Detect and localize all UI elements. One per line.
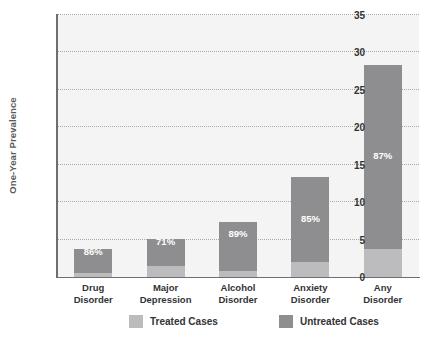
- y-axis-tick-label: 10: [339, 197, 365, 208]
- category-label-line: Alcohol: [202, 282, 274, 294]
- bar-group[interactable]: 87%: [364, 65, 402, 277]
- y-axis-title-text: One-Year Prevalence: [7, 97, 18, 193]
- y-axis-tick-label: 35: [339, 10, 365, 21]
- chart-container: One-Year Prevalence 86%71%89%85%87% 0510…: [0, 0, 427, 341]
- y-axis-tick-label: 0: [339, 272, 365, 283]
- legend-swatch-untreated: [279, 315, 293, 328]
- y-axis-tick-label: 15: [339, 159, 365, 170]
- bar-segment-untreated[interactable]: [291, 177, 329, 262]
- legend-item[interactable]: Treated Cases: [129, 315, 218, 328]
- category-label-line: Disorder: [57, 294, 129, 306]
- bar-segment-treated[interactable]: [147, 266, 185, 277]
- category-label-line: Anxiety: [274, 282, 346, 294]
- legend-label: Untreated Cases: [300, 316, 379, 327]
- bar-segment-untreated[interactable]: [364, 65, 402, 249]
- bar-segment-untreated[interactable]: [147, 239, 185, 266]
- bar-segment-treated[interactable]: [364, 249, 402, 277]
- y-axis-tick-label: 25: [339, 84, 365, 95]
- y-axis-tick-label: 30: [339, 47, 365, 58]
- bar-segment-treated[interactable]: [74, 273, 112, 277]
- bar-segment-untreated[interactable]: [74, 249, 112, 273]
- legend-swatch-treated: [129, 315, 143, 328]
- category-label-line: Disorder: [347, 294, 419, 306]
- x-axis-category-label: DrugDisorder: [57, 282, 129, 306]
- y-axis-title: One-Year Prevalence: [0, 0, 24, 290]
- y-axis-tick-label: 20: [339, 122, 365, 133]
- bar-group[interactable]: 85%: [291, 177, 329, 277]
- bar-group[interactable]: 89%: [219, 222, 257, 277]
- category-label-line: Major: [129, 282, 201, 294]
- legend-label: Treated Cases: [150, 316, 218, 327]
- legend-item[interactable]: Untreated Cases: [279, 315, 379, 328]
- x-axis-category-labels: DrugDisorderMajorDepressionAlcoholDisord…: [57, 282, 419, 312]
- category-label-line: Drug: [57, 282, 129, 294]
- bar-group[interactable]: 71%: [147, 239, 185, 277]
- bar-group[interactable]: 86%: [74, 249, 112, 277]
- bar-segment-treated[interactable]: [219, 271, 257, 277]
- bar-segment-untreated[interactable]: [219, 222, 257, 271]
- category-label-line: Disorder: [202, 294, 274, 306]
- x-axis-category-label: AnxietyDisorder: [274, 282, 346, 306]
- category-label-line: Depression: [129, 294, 201, 306]
- x-axis-category-label: MajorDepression: [129, 282, 201, 306]
- bar-segment-treated[interactable]: [291, 262, 329, 277]
- category-label-line: Disorder: [274, 294, 346, 306]
- chart-legend: Treated CasesUntreated Cases: [57, 315, 419, 337]
- x-axis-category-label: AnyDisorder: [347, 282, 419, 306]
- y-axis-tick-label: 5: [339, 234, 365, 245]
- category-label-line: Any: [347, 282, 419, 294]
- x-axis-category-label: AlcoholDisorder: [202, 282, 274, 306]
